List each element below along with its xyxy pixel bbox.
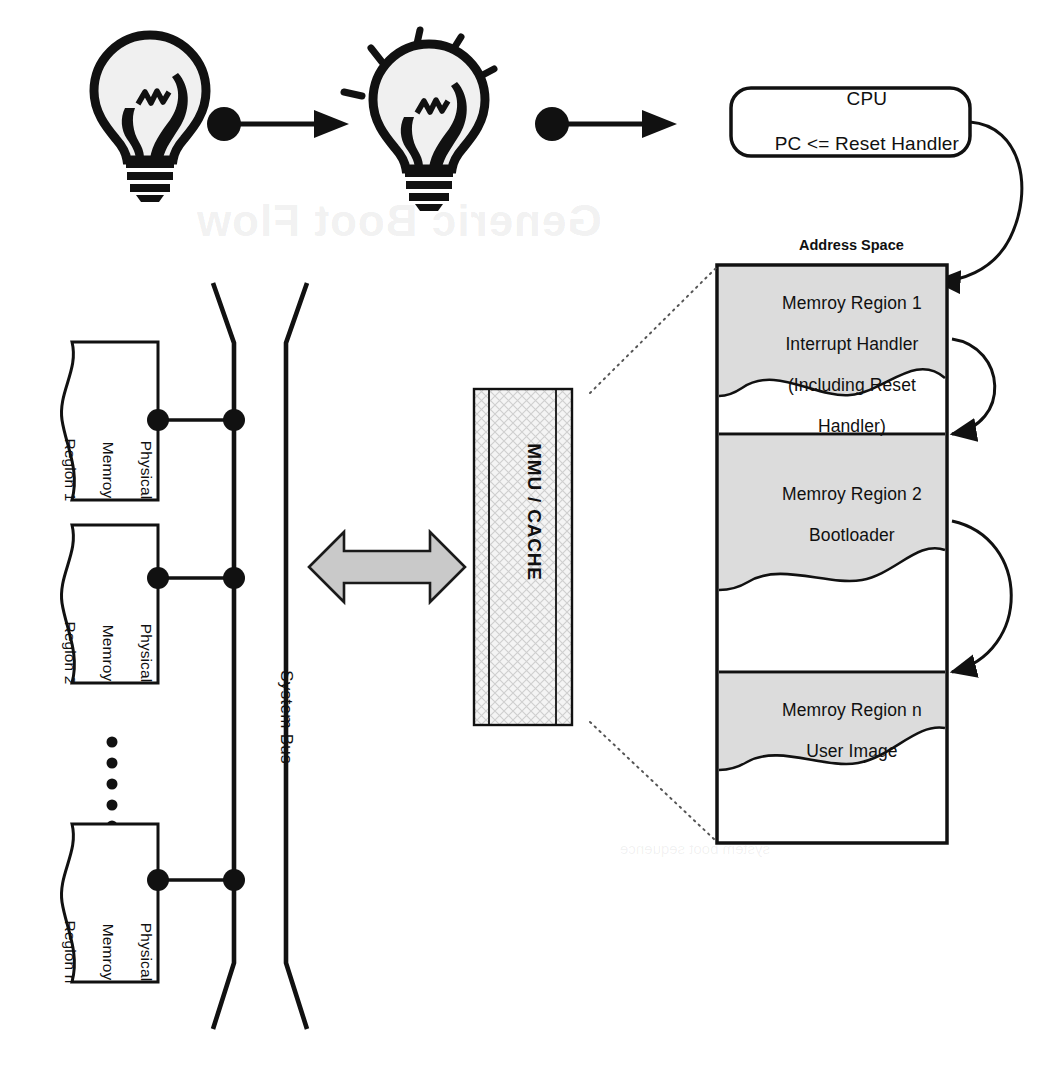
memory-region-1-label: Memroy Region 1 Interrupt Handler (Inclu…: [737, 272, 947, 458]
cpu-label-line2: PC <= Reset Handler: [775, 133, 959, 154]
address-space-label: Address Space: [799, 237, 904, 254]
physical-memory-1-label: Physical Memroy Region 1: [42, 386, 174, 536]
pm-1-line-2: Memroy: [100, 442, 117, 499]
pm-1-line-1: Physical: [138, 441, 155, 500]
region-1-line-2: Interrupt Handler: [785, 334, 918, 354]
mmu-cache-label: MMU / CACHE: [523, 443, 545, 573]
memory-region-n-label: Memroy Region n User Image: [737, 679, 947, 782]
region-1-line-1: Memroy Region 1: [782, 293, 922, 313]
physical-memory-2-label: Physical Memroy Region 2: [42, 569, 174, 719]
dot-arrow-connector-icon-1: [207, 107, 349, 141]
pm-2-line-2: Memroy: [100, 625, 117, 682]
physical-memory-n-label: Physical Memroy Region n: [42, 868, 174, 1018]
system-bus-label: System Bus: [276, 637, 296, 797]
physical-memory-ellipsis: [107, 737, 118, 832]
region-2-line-1: Memroy Region 2: [782, 484, 922, 504]
region-1-line-3: (Including Reset: [788, 375, 916, 395]
diagram-canvas: Generic Boot Flow system boot sequence: [0, 0, 1059, 1072]
memory-region-2-label: Memroy Region 2 Bootloader: [737, 463, 947, 566]
region-n-line-1: Memroy Region n: [782, 700, 922, 720]
region-1-line-4: Handler): [818, 416, 886, 436]
lightbulb-lit-icon: [344, 30, 494, 211]
projection-lines: [590, 268, 716, 841]
arrow-region2-to-regionn: [952, 521, 1011, 672]
region-2-line-2: Bootloader: [809, 525, 895, 545]
pm-n-line-1: Physical: [138, 923, 155, 982]
pm-2-line-3: Region 2: [63, 622, 80, 685]
dot-arrow-connector-icon-2: [535, 107, 677, 141]
arrow-region1-to-region2: [952, 339, 995, 434]
lightbulb-off-icon: [94, 35, 206, 202]
pm-1-line-3: Region 1: [63, 439, 80, 502]
pm-n-line-2: Memroy: [100, 924, 117, 981]
cpu-label-line1: CPU: [847, 88, 888, 109]
cpu-box: CPU PC <= Reset Handler: [731, 88, 970, 156]
pm-n-line-3: Region n: [63, 921, 80, 984]
region-n-line-2: User Image: [806, 741, 897, 761]
pm-2-line-1: Physical: [138, 624, 155, 683]
double-headed-arrow-icon: [309, 532, 465, 602]
